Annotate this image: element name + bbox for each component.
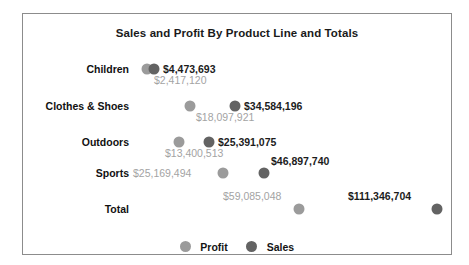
legend-item-profit[interactable]: Profit [180,237,228,255]
sales-value-total: $111,346,704 [348,190,411,202]
category-label-children: Children [23,63,129,75]
category-label-outdoors: Outdoors [23,136,129,148]
category-label-sports: Sports [23,167,129,179]
sales-dot-icon[interactable] [204,137,215,148]
chart-title: Sales and Profit By Product Line and Tot… [23,27,451,39]
profit-value-total: $59,085,048 [223,190,281,202]
category-label-clothes-and-shoes: Clothes & Shoes [23,100,129,112]
sales-dot-icon[interactable] [149,64,160,75]
sales-dot-icon[interactable] [259,168,270,179]
legend-label-profit: Profit [200,241,227,253]
sales-value-sports: $46,897,740 [271,155,329,167]
category-label-total: Total [23,203,129,215]
profit-value-sports: $25,169,494 [133,167,191,179]
profit-dot-icon[interactable] [218,168,229,179]
legend-label-sales: Sales [267,241,294,253]
legend-item-sales[interactable]: Sales [246,237,294,255]
profit-dot-icon[interactable] [174,137,185,148]
sales-dot-icon[interactable] [230,101,241,112]
sales-dot-icon[interactable] [432,204,443,215]
profit-value-children: $2,417,120 [154,74,207,86]
profit-value-clothes-and-shoes: $18,097,921 [196,111,254,123]
sales-value-outdoors: $25,391,075 [218,136,276,148]
sales-dot-icon [246,241,257,252]
profit-dot-icon[interactable] [185,101,196,112]
chart-container: Sales and Profit By Product Line and Tot… [22,13,452,255]
profit-dot-icon[interactable] [294,204,305,215]
chart-legend: Profit Sales [23,236,451,255]
profit-value-outdoors: $13,400,513 [165,147,223,159]
profit-dot-icon [180,241,191,252]
